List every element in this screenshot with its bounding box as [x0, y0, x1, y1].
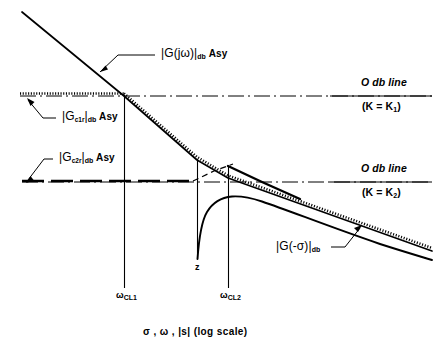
label-omega-cl2-omega: ω: [220, 290, 228, 300]
label-k-equals-k1: (K = K1): [362, 100, 401, 113]
label-gc1r-prefix: |G: [62, 109, 75, 123]
label-gc1r-asy-word: Asy: [99, 111, 118, 122]
label-k1-paren: ): [397, 100, 401, 112]
label-gc1r-asy: |Gc1r|db Asy: [62, 110, 118, 123]
leader-gc1r: [27, 98, 56, 118]
label-gc2r-prefix: |G: [59, 150, 72, 164]
label-g-minus-sigma-db-sub: db: [312, 246, 321, 253]
label-omega-cl2-sub: CL2: [228, 294, 241, 301]
label-k-equals-k2: (K = K2): [362, 186, 401, 199]
leader-gc2r: [26, 159, 53, 183]
label-g-jomega-asy: |G(jω)|db Asy: [161, 47, 227, 60]
label-k2-paren: ): [397, 186, 401, 198]
label-zero-db-line-k2: O db line: [361, 162, 407, 174]
label-gc2r-sub-c2r: c2r: [72, 157, 82, 164]
label-gc1r-sub-c1r: c1r: [75, 116, 85, 123]
figure-root: |G(jω)|db Asy |Gc1r|db Asy |Gc2r|db Asy …: [0, 0, 443, 358]
label-g-minus-sigma-magnitude: |G(-σ)|: [276, 239, 312, 253]
label-gc1r-sub-db: db: [88, 116, 97, 123]
label-gc2r-asy: |Gc2r|db Asy: [59, 151, 115, 164]
label-g-jomega-magnitude: |G(jω)|: [161, 46, 197, 60]
label-omega-cl1-omega: ω: [116, 290, 124, 300]
label-gc2r-sub-db: db: [85, 157, 94, 164]
label-g-jomega-asy-word: Asy: [209, 48, 228, 59]
label-g-minus-sigma: |G(-σ)|db: [276, 240, 320, 253]
label-omega-cl1: ωCL1: [116, 290, 137, 301]
label-omega-cl1-sub: CL1: [124, 294, 137, 301]
label-omega-cl2: ωCL2: [220, 290, 241, 301]
label-g-jomega-db-sub: db: [197, 53, 206, 60]
label-k2-text: (K = K: [362, 186, 393, 198]
label-zero-z: z: [195, 262, 200, 272]
label-k1-text: (K = K: [362, 100, 393, 112]
leader-g-jomega: [100, 55, 155, 72]
label-gc2r-asy-word: Asy: [96, 152, 115, 163]
label-zero-db-line-k1: O db line: [361, 76, 407, 88]
x-axis-caption: σ , ω , |s| (log scale): [143, 326, 248, 337]
